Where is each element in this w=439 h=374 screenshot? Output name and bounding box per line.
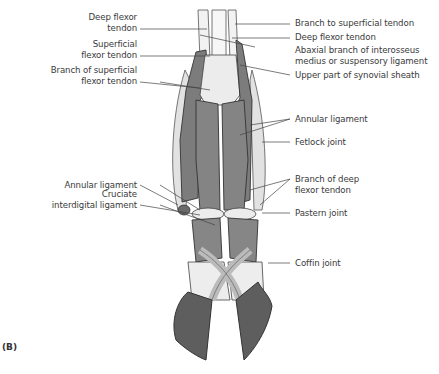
deep-flexor-column-left: [196, 100, 220, 210]
label-fetlock-joint: Fetlock joint: [295, 137, 346, 148]
label-abaxial-branch: Abaxial branch of interosseus medius or …: [295, 45, 427, 67]
label-branch-of-superficial-flexor-tendon: Branch of superficial flexor tendon: [51, 65, 137, 87]
label-coffin-joint: Coffin joint: [295, 258, 341, 269]
label-upper-part-of-synovial-sheath: Upper part of synovial sheath: [295, 70, 420, 81]
label-superficial-flexor-tendon: Superficial flexor tendon: [81, 39, 137, 61]
label-pastern-joint: Pastern joint: [295, 208, 347, 219]
metacarpal-bone: [200, 55, 240, 105]
label-deep-flexor-tendon-right: Deep flexor tendon: [295, 32, 376, 43]
label-branch-to-superficial-tendon: Branch to superficial tendon: [295, 18, 414, 29]
deep-flexor-column-right: [222, 100, 248, 210]
label-cruciate-interdigital-ligament: Cruciate interdigital ligament: [52, 189, 137, 211]
anatomy-figure: Deep flexor tendon Superficial flexor te…: [0, 0, 439, 374]
label-deep-flexor-tendon-left: Deep flexor tendon: [89, 12, 137, 34]
label-branch-of-deep-flexor-tendon: Branch of deep flexor tendon: [295, 174, 359, 196]
panel-label: (B): [2, 342, 17, 352]
label-annular-ligament-right: Annular ligament: [295, 114, 368, 125]
hoof-left: [174, 292, 212, 360]
